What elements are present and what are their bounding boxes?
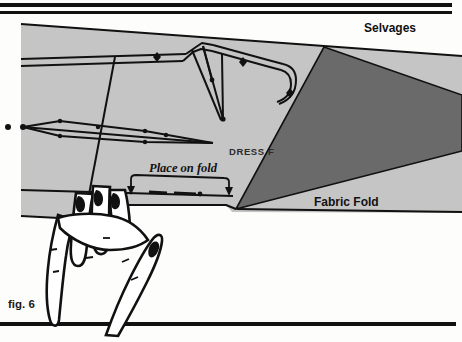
grainline-end-dot (198, 192, 203, 197)
crease-2 (53, 271, 59, 272)
label-selvages: Selvages (364, 21, 416, 35)
grainline-dash-1 (149, 192, 167, 193)
dot-dart-upper (58, 119, 62, 123)
figure-container: Selvages Fabric Fold Place on fold DRESS… (0, 0, 462, 342)
grainline-dash-2 (174, 193, 196, 194)
dot-dart-mid-right-lower (143, 140, 147, 144)
dot-dart-mid (96, 125, 100, 129)
crease-1 (50, 249, 57, 250)
dot-dart-fold (210, 78, 215, 83)
dot-dart-mid-right (143, 129, 147, 133)
sewing-figure-illustration: Selvages Fabric Fold Place on fold DRESS… (0, 0, 462, 342)
figure-caption: fig. 6 (8, 298, 35, 310)
dot-dart-right (164, 133, 168, 137)
dot-dart-point (20, 124, 26, 130)
dot-dart-tip (220, 116, 225, 121)
bottom-rule (0, 322, 456, 326)
label-fabric-fold: Fabric Fold (314, 195, 379, 209)
label-place-on-fold: Place on fold (149, 161, 218, 175)
dot-dart-apex-left (5, 124, 11, 130)
label-pattern-piece-name: DRESS F (229, 146, 274, 157)
top-rule-lower (0, 11, 452, 14)
top-rule-upper (0, 3, 452, 7)
dart-leg-right (222, 54, 223, 119)
dot-dart-lower (58, 134, 62, 138)
crease-3 (86, 257, 93, 258)
